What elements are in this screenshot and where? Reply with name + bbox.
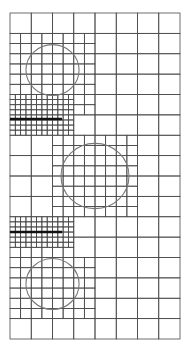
mesh-cell bbox=[116, 237, 137, 257]
mesh-cell bbox=[10, 176, 31, 196]
mesh-cell bbox=[74, 105, 85, 115]
mesh-cell bbox=[63, 166, 74, 176]
mesh-cell bbox=[37, 130, 42, 135]
mesh-cell bbox=[74, 156, 85, 166]
mesh-cell bbox=[37, 120, 42, 125]
mesh-cell bbox=[95, 196, 106, 206]
mesh-cell bbox=[74, 115, 95, 135]
mesh-cell bbox=[31, 13, 52, 33]
mesh-cell bbox=[31, 222, 36, 227]
mesh-cell bbox=[68, 227, 73, 232]
mesh-cell bbox=[21, 105, 26, 110]
mesh-cell bbox=[53, 242, 58, 247]
mesh-cell bbox=[10, 237, 15, 242]
mesh-cell bbox=[53, 319, 74, 339]
mesh-cell bbox=[63, 222, 68, 227]
mesh-cell bbox=[63, 125, 68, 130]
mesh-cell bbox=[10, 64, 21, 74]
mesh-cell bbox=[159, 278, 180, 298]
mesh-cell bbox=[31, 125, 36, 130]
mesh-cell bbox=[47, 110, 52, 115]
mesh-cell bbox=[42, 125, 47, 130]
mesh-cell bbox=[127, 145, 138, 155]
mesh-cell bbox=[63, 227, 68, 232]
mesh-cell bbox=[53, 54, 64, 64]
mesh-cell bbox=[42, 64, 53, 74]
mesh-cell bbox=[138, 135, 159, 155]
mesh-cell bbox=[21, 130, 26, 135]
mesh-cell bbox=[42, 242, 47, 247]
mesh-cell bbox=[84, 84, 95, 94]
mesh-cell bbox=[138, 156, 159, 176]
mesh-cell bbox=[74, 268, 85, 278]
mesh-cell bbox=[21, 95, 26, 100]
mesh-cell bbox=[116, 135, 127, 145]
mesh-cell bbox=[159, 74, 180, 94]
mesh-cell bbox=[10, 278, 21, 288]
mesh-cell bbox=[68, 120, 73, 125]
mesh-cell bbox=[53, 237, 58, 242]
mesh-cell bbox=[42, 268, 53, 278]
mesh-cell bbox=[68, 237, 73, 242]
mesh-cell bbox=[15, 222, 20, 227]
mesh-cell bbox=[95, 74, 116, 94]
mesh-cell bbox=[53, 100, 58, 105]
mesh-cell bbox=[53, 268, 64, 278]
mesh-cell bbox=[159, 156, 180, 176]
mesh-cell bbox=[42, 33, 53, 43]
mesh-cell bbox=[95, 166, 106, 176]
mesh-cell bbox=[15, 110, 20, 115]
mesh-cell bbox=[95, 13, 116, 33]
mesh-cell bbox=[42, 100, 47, 105]
mesh-cell bbox=[10, 298, 21, 308]
mesh-cell bbox=[15, 237, 20, 242]
mesh-cell bbox=[47, 130, 52, 135]
mesh-cell bbox=[159, 237, 180, 257]
mesh-cell bbox=[42, 237, 47, 242]
mesh-cell bbox=[95, 258, 116, 278]
cracks bbox=[10, 119, 62, 232]
mesh-cell bbox=[58, 105, 63, 110]
mesh-cell bbox=[31, 74, 42, 84]
mesh-cell bbox=[84, 145, 95, 155]
mesh-cell bbox=[21, 268, 32, 278]
mesh-cell bbox=[21, 110, 26, 115]
mesh-cell bbox=[10, 33, 21, 43]
mesh-cell bbox=[10, 130, 15, 135]
mesh-cell bbox=[116, 166, 127, 176]
mesh-cell bbox=[53, 207, 64, 217]
mesh-cell bbox=[95, 319, 116, 339]
mesh-cell bbox=[63, 176, 74, 186]
mesh-cell bbox=[37, 95, 42, 100]
mesh-cell bbox=[31, 247, 42, 257]
mesh-cell bbox=[68, 95, 73, 100]
mesh-cell bbox=[68, 130, 73, 135]
mesh-cell bbox=[116, 319, 137, 339]
mesh-cell bbox=[138, 13, 159, 33]
mesh-cell bbox=[63, 120, 68, 125]
mesh-cell bbox=[106, 156, 117, 166]
mesh-cell bbox=[10, 120, 15, 125]
mesh-cell bbox=[63, 237, 68, 242]
mesh-cell bbox=[10, 13, 31, 33]
mesh-cell bbox=[58, 100, 63, 105]
mesh-cell bbox=[138, 298, 159, 318]
mesh-cell bbox=[95, 156, 106, 166]
mesh-cell bbox=[159, 258, 180, 278]
mesh-cell bbox=[21, 54, 32, 64]
mesh-cell bbox=[63, 196, 74, 206]
mesh-cell bbox=[42, 130, 47, 135]
mesh-cell bbox=[58, 242, 63, 247]
mesh-cell bbox=[138, 196, 159, 216]
mesh-cell bbox=[53, 145, 64, 155]
mesh-cell bbox=[127, 156, 138, 166]
mesh-cell bbox=[42, 74, 53, 84]
mesh-cell bbox=[53, 33, 64, 43]
mesh-cell bbox=[31, 33, 42, 43]
mesh-cell bbox=[84, 64, 95, 74]
mesh-cell bbox=[15, 120, 20, 125]
mesh-cell bbox=[10, 196, 31, 216]
mesh-cell bbox=[26, 125, 31, 130]
mesh-cell bbox=[116, 217, 137, 237]
mesh-cell bbox=[95, 33, 116, 53]
